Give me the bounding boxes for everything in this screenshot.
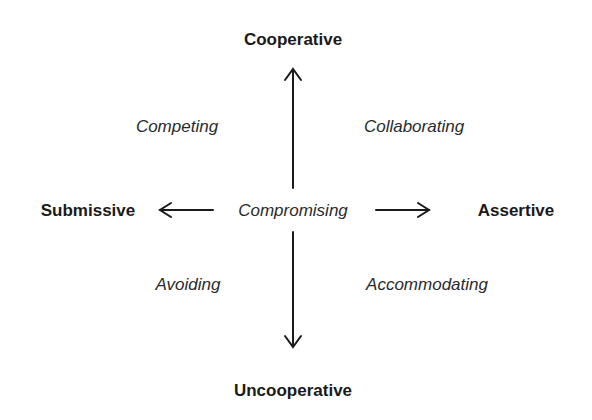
axis-label-submissive: Submissive: [41, 202, 136, 219]
arrow-right-icon: [376, 203, 429, 217]
arrow-left-icon: [160, 203, 213, 217]
mode-avoiding: Avoiding: [156, 276, 221, 293]
axis-label-cooperative: Cooperative: [244, 31, 342, 48]
mode-compromising: Compromising: [238, 202, 348, 219]
axis-label-uncooperative: Uncooperative: [234, 382, 352, 399]
axis-label-assertive: Assertive: [478, 202, 555, 219]
mode-competing: Competing: [136, 118, 218, 135]
arrow-down-icon: [285, 232, 301, 347]
arrow-up-icon: [285, 69, 301, 188]
mode-collaborating: Collaborating: [364, 118, 464, 135]
mode-accommodating: Accommodating: [366, 276, 488, 293]
